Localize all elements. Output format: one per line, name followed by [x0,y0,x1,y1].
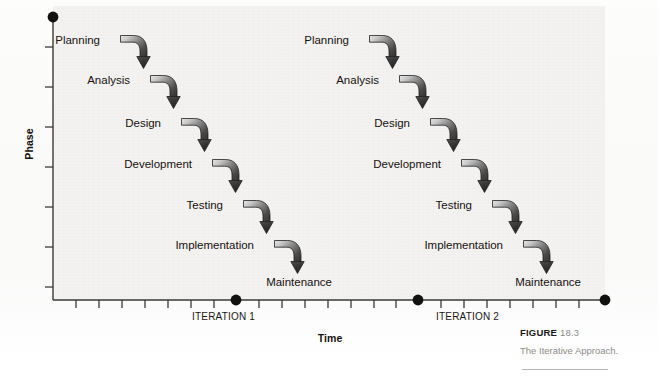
phase-label-maintenance-2: Maintenance [515,276,581,289]
phase-label-analysis-1: Analysis [87,74,130,87]
milestone-dot-3 [600,295,611,306]
y-axis-origin-dot [48,12,59,23]
x-axis-ticks [76,300,579,308]
phase-label-planning-1: Planning [55,34,100,47]
phase-label-development-2: Development [373,158,441,171]
phase-label-design-2: Design [374,117,410,130]
figure-caption-heading: FIGURE 18.3 [520,327,579,338]
phase-label-analysis-2: Analysis [336,74,379,87]
phase-label-design-1: Design [125,117,161,130]
caption-divider [522,369,608,370]
figure-caption-number: 18.3 [560,327,579,338]
milestone-dot-2 [413,295,424,306]
phase-label-planning-2: Planning [304,34,349,47]
milestone-dot-1 [231,295,242,306]
chart-svg [0,0,658,377]
iteration-2-arrows [369,35,553,274]
phase-label-development-1: Development [124,158,192,171]
phase-label-testing-1: Testing [187,199,223,212]
figure-caption-word: FIGURE [520,327,557,338]
x-axis-title: Time [285,332,375,344]
y-axis-ticks [45,47,53,287]
phase-label-maintenance-1: Maintenance [266,276,332,289]
phase-label-implementation-2: Implementation [424,239,503,252]
iteration-1-label: ITERATION 1 [192,311,255,322]
phase-label-testing-2: Testing [436,199,472,212]
figure-iterative-approach: Phase Time ITERATION 1 ITERATION 2 Plann… [0,0,658,377]
iteration-2-label: ITERATION 2 [436,311,499,322]
phase-label-implementation-1: Implementation [175,239,254,252]
iteration-1-arrows [120,35,304,274]
y-axis-title: Phase [23,114,35,174]
figure-caption-text: The Iterative Approach. [520,345,618,356]
